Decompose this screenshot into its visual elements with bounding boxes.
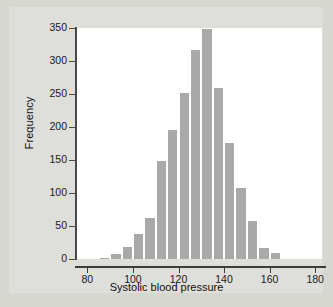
x-axis-title: Systolic blood pressure bbox=[0, 281, 333, 293]
histogram-bar bbox=[179, 93, 190, 259]
y-tick-mark bbox=[69, 226, 75, 227]
y-tick-label-text: 250 bbox=[35, 88, 67, 99]
histogram-bar bbox=[110, 254, 121, 259]
y-axis-title: Frequency bbox=[23, 73, 35, 173]
y-tick-label-text: 100 bbox=[35, 187, 67, 198]
histogram-bar bbox=[258, 248, 269, 259]
histogram-figure: 050100150200250300350 80100120140160180 … bbox=[0, 0, 333, 307]
y-tick-label: 150 bbox=[31, 154, 67, 165]
y-tick-mark bbox=[69, 259, 75, 260]
y-tick-label-text: 50 bbox=[35, 220, 67, 231]
y-tick-label-text: 300 bbox=[35, 55, 67, 66]
y-tick-label: 0 bbox=[31, 253, 67, 264]
y-tick-label: 300 bbox=[31, 55, 67, 66]
y-tick-mark bbox=[69, 28, 75, 29]
histogram-bar bbox=[190, 50, 201, 259]
plot-area bbox=[76, 28, 322, 259]
x-axis-line bbox=[75, 266, 326, 268]
bar-series bbox=[76, 28, 322, 259]
histogram-bar bbox=[144, 218, 155, 259]
y-tick-mark bbox=[69, 127, 75, 128]
y-tick-mark bbox=[69, 94, 75, 95]
y-axis-line bbox=[75, 27, 77, 260]
y-tick-label: 350 bbox=[31, 22, 67, 33]
y-tick-label-text: 350 bbox=[35, 22, 67, 33]
histogram-bar bbox=[247, 221, 258, 259]
y-tick-label: 200 bbox=[31, 121, 67, 132]
histogram-bar bbox=[201, 29, 212, 259]
y-tick-label: 250 bbox=[31, 88, 67, 99]
y-tick-mark bbox=[69, 61, 75, 62]
y-tick-label-text: 150 bbox=[35, 154, 67, 165]
y-tick-label-text: 0 bbox=[35, 253, 67, 264]
histogram-bar bbox=[167, 130, 178, 259]
histogram-bar bbox=[235, 188, 246, 259]
y-tick-label: 50 bbox=[31, 220, 67, 231]
histogram-bar bbox=[213, 88, 224, 259]
histogram-bar bbox=[99, 258, 110, 259]
histogram-bar bbox=[156, 161, 167, 259]
y-tick-mark bbox=[69, 160, 75, 161]
figure-panel: 050100150200250300350 80100120140160180 … bbox=[9, 7, 323, 293]
histogram-bar bbox=[133, 234, 144, 259]
y-tick-label-text: 200 bbox=[35, 121, 67, 132]
y-tick-label: 100 bbox=[31, 187, 67, 198]
histogram-bar bbox=[224, 143, 235, 259]
y-tick-mark bbox=[69, 193, 75, 194]
histogram-bar bbox=[122, 247, 133, 259]
histogram-bar bbox=[270, 253, 281, 259]
